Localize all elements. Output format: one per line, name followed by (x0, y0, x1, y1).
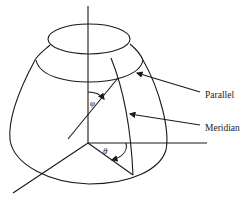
parallel-leader-arrow (137, 73, 200, 92)
theta-angle-arc (112, 143, 126, 160)
meridian-curve (111, 58, 133, 175)
parallel-circle (36, 60, 143, 82)
parallel-label: Parallel (205, 90, 234, 100)
meridian-label: Meridian (205, 123, 240, 133)
diagonal-axis (13, 143, 88, 193)
theta-label: θ (103, 146, 108, 156)
shell-of-revolution-diagram: Parallel Meridian φ θ (0, 0, 250, 202)
phi-label: φ (90, 98, 95, 108)
top-parallel-ellipse (48, 24, 130, 54)
phi-radius-line (68, 78, 118, 139)
